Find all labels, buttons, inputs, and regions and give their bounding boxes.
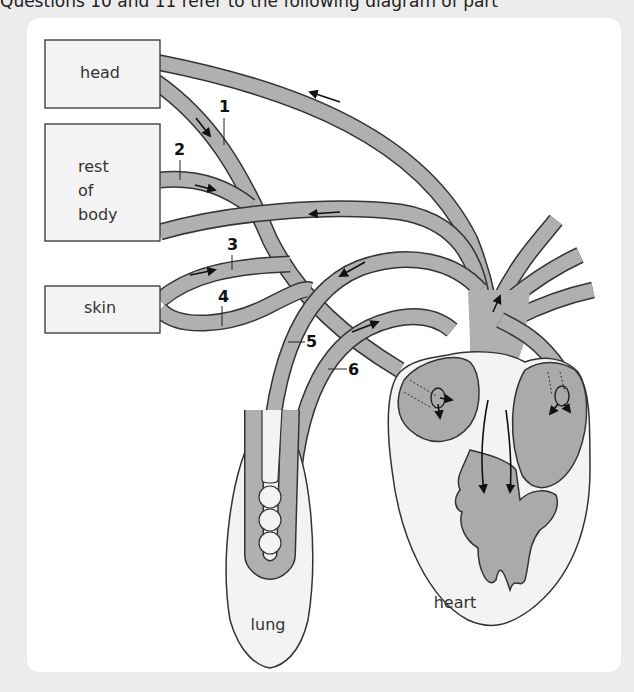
box-skin: skin bbox=[45, 286, 160, 333]
label-4: 4 bbox=[218, 287, 229, 306]
box-head: head bbox=[45, 40, 160, 108]
heart-label: heart bbox=[434, 593, 477, 612]
lung-label: lung bbox=[251, 615, 286, 634]
rest-label: rest bbox=[78, 157, 109, 176]
label-5: 5 bbox=[306, 332, 317, 351]
body-label: body bbox=[78, 205, 118, 224]
label-1: 1 bbox=[219, 97, 230, 116]
label-3: 3 bbox=[227, 235, 238, 254]
label-2: 2 bbox=[174, 140, 185, 159]
heart: heart bbox=[388, 352, 590, 626]
of-label: of bbox=[78, 181, 94, 200]
circulatory-diagram: heart lung head rest of body skin bbox=[0, 0, 634, 692]
label-6: 6 bbox=[348, 360, 359, 379]
skin-label: skin bbox=[84, 298, 116, 317]
box-rest-of-body: rest of body bbox=[45, 124, 160, 241]
head-label: head bbox=[80, 63, 120, 82]
